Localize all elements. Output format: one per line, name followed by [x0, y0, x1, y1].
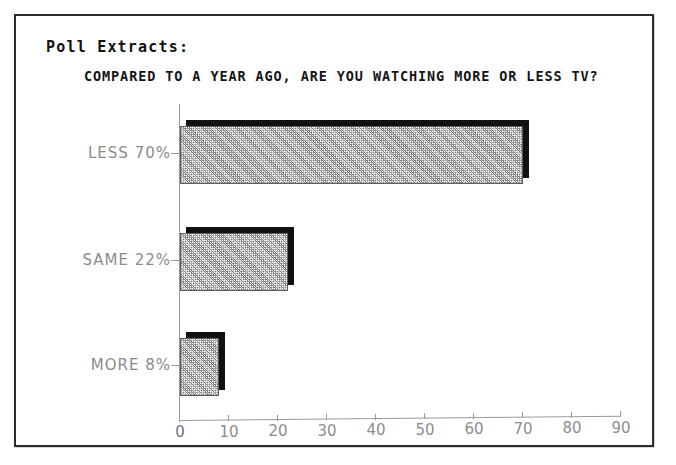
y-axis-tick — [171, 260, 180, 261]
screenshot-page: Poll Extracts: COMPARED TO A YEAR AGO, A… — [0, 0, 676, 465]
x-axis-line — [179, 416, 621, 421]
x-axis-tick — [277, 415, 278, 421]
bar-more — [180, 338, 219, 396]
bar-same — [180, 233, 288, 291]
y-axis-tick — [171, 153, 180, 154]
x-axis-tick-label: 10 — [219, 423, 238, 441]
bar-label-more: MORE 8% — [21, 356, 171, 374]
section-label: Poll Extracts: — [46, 38, 189, 56]
x-axis-tick-label: 30 — [317, 422, 336, 440]
bar-label-same: SAME 22% — [21, 251, 171, 269]
chart-title: COMPARED TO A YEAR AGO, ARE YOU WATCHING… — [84, 68, 599, 84]
x-axis-tick — [228, 415, 229, 421]
x-axis-tick-label: 60 — [464, 420, 483, 438]
x-axis-tick-label: 0 — [175, 423, 185, 441]
x-axis-tick-label: 20 — [268, 422, 287, 440]
x-axis-tick-label: 90 — [611, 419, 630, 437]
x-axis-tick-label: 40 — [366, 421, 385, 439]
bar-face — [180, 338, 219, 396]
y-axis-tick — [171, 365, 180, 366]
x-axis-tick — [179, 415, 180, 421]
x-axis-tick-label: 50 — [415, 421, 434, 439]
x-axis-tick — [473, 413, 474, 419]
bar-less — [180, 126, 523, 184]
bar-face — [180, 126, 523, 184]
x-axis-tick — [424, 413, 425, 419]
bar-label-less: LESS 70% — [21, 144, 171, 162]
bar-face — [180, 233, 288, 291]
x-axis-tick — [522, 412, 523, 418]
poll-extract-frame: Poll Extracts: COMPARED TO A YEAR AGO, A… — [14, 14, 654, 447]
x-axis-tick — [571, 412, 572, 418]
x-axis-tick — [620, 411, 621, 417]
x-axis-tick-label: 70 — [513, 420, 532, 438]
x-axis-tick — [375, 414, 376, 420]
x-axis-tick-label: 80 — [562, 419, 581, 437]
x-axis-tick — [326, 414, 327, 420]
